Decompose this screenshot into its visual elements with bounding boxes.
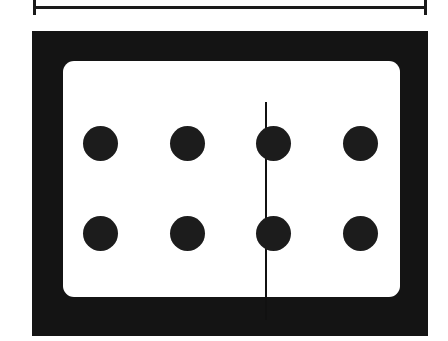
- domino-pip: [170, 216, 205, 251]
- domino-pip: [83, 126, 118, 161]
- dimension-tick-right: [424, 0, 427, 15]
- dimension-tick-left: [33, 0, 36, 15]
- domino-pip: [343, 126, 378, 161]
- domino-pip: [256, 126, 291, 161]
- domino-pip: [83, 216, 118, 251]
- figure-canvas: [0, 0, 448, 341]
- domino-pip: [256, 216, 291, 251]
- dimension-line: [33, 6, 427, 9]
- domino-tile: [32, 31, 428, 336]
- domino-pip: [170, 126, 205, 161]
- domino-face: [63, 61, 400, 297]
- domino-pip: [343, 216, 378, 251]
